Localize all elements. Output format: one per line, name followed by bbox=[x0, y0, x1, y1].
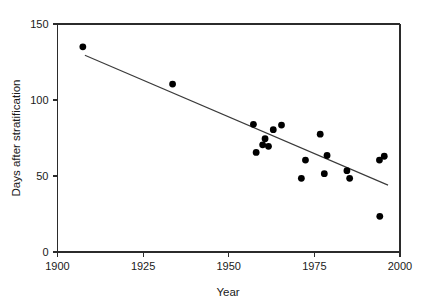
x-tick-label: 1950 bbox=[217, 260, 241, 272]
data-point bbox=[259, 141, 266, 148]
y-axis-title: Days after stratification bbox=[10, 80, 22, 197]
data-point bbox=[265, 143, 272, 150]
x-axis-title: Year bbox=[216, 286, 239, 298]
data-point bbox=[270, 126, 277, 133]
x-tick-label: 1900 bbox=[45, 260, 69, 272]
data-point bbox=[302, 157, 309, 164]
data-point bbox=[250, 121, 257, 128]
data-point bbox=[278, 122, 285, 129]
x-tick-label: 1925 bbox=[131, 260, 155, 272]
data-point bbox=[324, 152, 331, 159]
data-point bbox=[381, 153, 388, 160]
data-point bbox=[253, 149, 260, 156]
y-tick-label: 100 bbox=[30, 94, 48, 106]
data-point bbox=[262, 135, 269, 142]
trend-line-group bbox=[85, 55, 388, 185]
x-tick-label: 2000 bbox=[388, 260, 412, 272]
scatter-plot-figure: 050100150 19001925195019752000 Year Days… bbox=[0, 0, 429, 308]
x-axis-ticks: 19001925195019752000 bbox=[45, 252, 412, 272]
y-axis-ticks: 050100150 bbox=[30, 18, 57, 258]
x-tick-label: 1975 bbox=[302, 260, 326, 272]
y-tick-label: 50 bbox=[36, 170, 48, 182]
data-point bbox=[79, 43, 86, 50]
data-point bbox=[346, 175, 353, 182]
data-point bbox=[169, 81, 176, 88]
y-tick-label: 0 bbox=[42, 246, 48, 258]
plot-area-axes bbox=[58, 24, 401, 252]
data-point bbox=[376, 213, 383, 220]
y-tick-label: 150 bbox=[30, 18, 48, 30]
regression-trend-line bbox=[85, 55, 388, 185]
data-point bbox=[321, 170, 328, 177]
chart-canvas: 050100150 19001925195019752000 Year Days… bbox=[0, 0, 429, 308]
data-point bbox=[344, 167, 351, 174]
data-point bbox=[317, 131, 324, 138]
data-points-group bbox=[79, 43, 387, 219]
data-point bbox=[298, 175, 305, 182]
